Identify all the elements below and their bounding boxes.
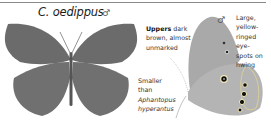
butterfly-illustrations: [0, 0, 271, 121]
upperside-butterfly-image: [5, 24, 137, 116]
upperside-annotation: Uppers dark brown, almost unmarked: [146, 24, 191, 52]
underside-annotation: Large, yellow- ringed eye- spots on hwin…: [236, 13, 271, 69]
size-comparison-note: Smaller than Aphantopus hyperantus: [138, 76, 176, 114]
male-symbol-underside: ♂: [217, 15, 225, 25]
